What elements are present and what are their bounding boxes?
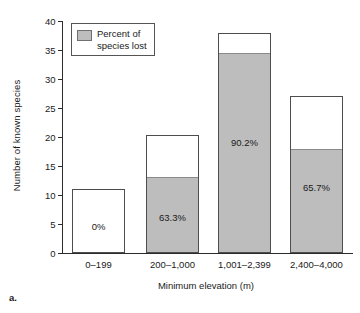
x-tick-label-0: 0–199	[85, 259, 111, 270]
y-tick-mark	[58, 224, 63, 225]
y-tick-label: 35	[45, 45, 56, 56]
bar-percent-label-1: 63.3%	[147, 212, 198, 223]
bar-fill-3	[291, 149, 342, 252]
y-tick-label: 20	[45, 132, 56, 143]
bar-percent-label-3: 65.7%	[291, 182, 342, 193]
bar-percent-label-2: 90.2%	[219, 137, 270, 148]
y-tick-mark	[58, 108, 63, 109]
legend-entry-label: Percent of species lost	[97, 28, 147, 51]
figure-caption: a.	[9, 292, 17, 303]
y-tick-label: 10	[45, 190, 56, 201]
x-tick-label-1: 200–1,000	[150, 259, 195, 270]
bar-1[interactable]: 63.3%	[146, 135, 199, 253]
y-tick-mark	[58, 50, 63, 51]
x-axis-line	[61, 253, 353, 254]
y-tick-mark	[58, 137, 63, 138]
x-axis-title: Minimum elevation (m)	[62, 280, 350, 291]
y-tick-mark	[58, 195, 63, 196]
y-tick-mark	[58, 21, 63, 22]
y-tick-label: 40	[45, 16, 56, 27]
bar-fill-2	[219, 53, 270, 252]
y-tick-label: 30	[45, 74, 56, 85]
bar-percent-label-0: 0%	[73, 221, 124, 232]
x-tick-label-3: 2,400–4,000	[290, 259, 343, 270]
bar-2[interactable]: 90.2%	[218, 33, 271, 253]
bar-3[interactable]: 65.7%	[290, 96, 343, 253]
y-tick-mark	[58, 253, 63, 254]
y-axis-line	[62, 21, 63, 253]
y-tick-label: 0	[50, 248, 55, 259]
chart-legend: Percent of species lost	[71, 23, 155, 56]
y-tick-label: 15	[45, 161, 56, 172]
y-tick-mark	[58, 166, 63, 167]
bar-0[interactable]: 0%	[72, 189, 125, 253]
x-tick-label-2: 1,001–2,399	[218, 259, 271, 270]
y-tick-label: 25	[45, 103, 56, 114]
legend-swatch-icon	[77, 30, 92, 41]
y-axis-title: Number of known species	[11, 46, 22, 226]
y-tick-label: 5	[50, 219, 55, 230]
chart-figure: Number of known species 0 5 10 15 20 25	[0, 0, 360, 313]
y-tick-mark	[58, 79, 63, 80]
